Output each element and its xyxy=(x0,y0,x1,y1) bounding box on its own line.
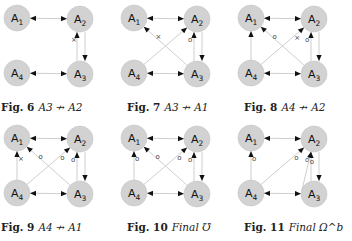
node-a2: A2 xyxy=(67,6,93,32)
arrowhead-icon xyxy=(316,55,321,61)
edge-A4-A1 xyxy=(248,31,253,60)
diagram-panel-fig10: ooooA1A2A3A4Fig. 10Final ℧ xyxy=(117,120,234,240)
arrowhead-icon xyxy=(178,71,184,76)
node-a4: A4 xyxy=(4,60,30,86)
arrowhead-icon xyxy=(30,191,36,196)
figure-number: Fig. 6 xyxy=(1,101,34,113)
arrowhead-icon xyxy=(61,136,67,141)
circle-mark-icon: o xyxy=(188,156,192,164)
figure-caption: Fig. 9A4 ↛ A1 xyxy=(0,221,118,233)
circle-mark-icon: o xyxy=(305,36,309,44)
graph-svg: ooooA1A2A3A4 xyxy=(234,120,351,220)
diagram-panel-fig9: o×ooA1A2A3A4Fig. 9A4 ↛ A1 xyxy=(0,120,117,240)
figure-number: Fig. 10 xyxy=(127,221,168,233)
graph-svg: o×oA1A2A3A4 xyxy=(234,0,351,100)
edge-A2-A3 xyxy=(199,152,204,181)
arrowhead-icon xyxy=(295,16,301,21)
figure-relation: A3 ↛ A2 xyxy=(38,101,82,113)
arrowhead-icon xyxy=(248,31,253,37)
circle-mark-icon: o xyxy=(156,153,160,161)
circle-mark-icon: o xyxy=(252,155,256,163)
arrowhead-icon xyxy=(264,136,270,141)
arrowhead-icon xyxy=(295,136,301,141)
circle-mark-icon: o xyxy=(71,156,75,164)
figure-number: Fig. 11 xyxy=(244,221,285,233)
cross-mark-icon: × xyxy=(18,155,24,163)
edge-A2-A3 xyxy=(82,152,87,181)
arrowhead-icon xyxy=(264,71,270,76)
graph-svg: o×ooA1A2A3A4 xyxy=(0,120,117,220)
edge-A2-A3 xyxy=(316,152,321,181)
figure-number: Fig. 9 xyxy=(1,221,34,233)
edge-A4-A3 xyxy=(264,71,301,77)
figure-relation: A4 ↛ A2 xyxy=(281,101,325,113)
edge-A1-A2 xyxy=(30,16,67,22)
edge-A2-A3 xyxy=(316,32,321,61)
edge-A3-A2: o xyxy=(188,152,197,181)
arrowhead-icon xyxy=(61,16,67,21)
arrowhead-icon xyxy=(178,16,184,21)
circle-mark-icon: o xyxy=(177,154,181,162)
graph-svg: ooooA1A2A3A4 xyxy=(117,120,234,220)
edge-A4-A3 xyxy=(30,71,67,77)
node-a3: A3 xyxy=(184,181,210,207)
circle-mark-icon: o xyxy=(273,33,277,41)
node-a3: A3 xyxy=(67,61,93,87)
diagram-panel-fig11: ooooA1A2A3A4Fig. 11Final Ω^b xyxy=(234,120,351,240)
figure-caption: Fig. 7A3 ↛ A1 xyxy=(117,101,244,113)
edge-A3-A2: o xyxy=(71,152,80,181)
figure-relation: Final ℧ xyxy=(172,221,211,233)
edge-A4-A3 xyxy=(147,191,184,197)
arrowhead-icon xyxy=(30,136,36,141)
node-a4: A4 xyxy=(238,180,264,206)
diagram-panel-fig6: ×A1A2A3A4Fig. 6A3 ↛ A2 xyxy=(0,0,117,120)
edge-A4-A1: × xyxy=(14,151,23,180)
node-a2: A2 xyxy=(184,6,210,32)
circle-mark-icon: o xyxy=(310,158,314,166)
edge-A4-A2: o xyxy=(261,147,304,184)
edge-A4-A3 xyxy=(264,191,301,197)
arrowhead-icon xyxy=(61,71,67,76)
edge-A1-A2 xyxy=(147,16,184,22)
edge-A4-A3 xyxy=(30,191,67,197)
arrowhead-icon xyxy=(147,71,153,76)
arrowhead-icon xyxy=(30,16,36,21)
node-a4: A4 xyxy=(238,60,264,86)
node-a1: A1 xyxy=(4,5,30,31)
arrowhead-icon xyxy=(295,71,301,76)
arrowhead-icon xyxy=(178,136,184,141)
edge-A4-A3 xyxy=(147,71,184,77)
arrowhead-icon xyxy=(264,16,270,21)
arrowhead-icon xyxy=(295,191,301,196)
arrowhead-icon xyxy=(147,16,153,21)
figure-caption: Fig. 10Final ℧ xyxy=(117,221,244,233)
cross-mark-icon: × xyxy=(294,34,300,42)
arrowhead-icon xyxy=(147,136,153,141)
figure-caption: Fig. 11Final Ω^b xyxy=(234,221,352,233)
edge-A2-A3 xyxy=(199,32,204,61)
edge-A2-A3 xyxy=(82,32,87,61)
node-a2: A2 xyxy=(184,126,210,152)
arrowhead-icon xyxy=(316,175,321,181)
edge-A3-A2: o xyxy=(188,32,197,61)
graph-svg: o×A1A2A3A4 xyxy=(117,0,234,100)
arrowhead-icon xyxy=(30,71,36,76)
figure-number: Fig. 7 xyxy=(127,101,160,113)
edge-A3-A2: o xyxy=(305,32,314,61)
node-a2: A2 xyxy=(301,6,327,32)
circle-mark-icon: o xyxy=(188,36,192,44)
node-a3: A3 xyxy=(67,181,93,207)
node-a4: A4 xyxy=(121,180,147,206)
edge-A1-A2 xyxy=(264,136,301,142)
arrowhead-icon xyxy=(82,175,87,181)
diagram-panel-fig8: o×oA1A2A3A4Fig. 8A4 ↛ A2 xyxy=(234,0,351,120)
figure-relation: A4 ↛ A1 xyxy=(38,221,82,233)
arrowhead-icon xyxy=(82,55,87,61)
arrowhead-icon xyxy=(199,175,204,181)
arrowhead-icon xyxy=(178,191,184,196)
figure-number: Fig. 8 xyxy=(244,101,277,113)
node-a2: A2 xyxy=(301,126,327,152)
node-a1: A1 xyxy=(121,5,147,31)
figure-caption: Fig. 8A4 ↛ A2 xyxy=(234,101,352,113)
edge-A1-A2 xyxy=(147,136,184,142)
